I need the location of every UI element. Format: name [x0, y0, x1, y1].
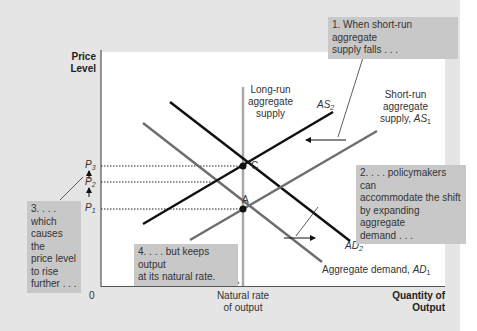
ad1-label: Aggregate demand, AD1: [322, 264, 430, 279]
callout-1: 1. When short-run aggregate supply falls…: [328, 17, 458, 59]
as1-label: Short-run aggregate supply, AS1: [368, 89, 443, 128]
callout-4: 4. . . . but keeps output at its natural…: [134, 244, 238, 286]
natural-rate-line2: of output: [213, 302, 273, 314]
natural-rate-line1: Natural rate: [213, 290, 273, 302]
p2-label: P2: [85, 176, 96, 191]
x-axis-label-line1: Quantity of: [375, 290, 445, 302]
x-axis-label: Quantity of Output: [375, 290, 445, 314]
lras-label: Long-run aggregate supply: [243, 84, 298, 120]
p3-label: P3: [85, 159, 96, 174]
x-axis-label-line2: Output: [375, 302, 445, 314]
point-c: [240, 163, 247, 170]
point-c-label: C: [251, 160, 258, 172]
callout-2: 2. . . . policymakers can accommodate th…: [356, 165, 466, 244]
as2-label: AS2: [317, 99, 334, 114]
p1-label: P1: [85, 202, 96, 217]
y-axis-label: Price Level: [68, 51, 96, 75]
y-axis-label-line2: Level: [68, 63, 96, 75]
callout2-leader: [296, 207, 318, 236]
natural-rate-label: Natural rate of output: [213, 290, 273, 314]
callout3-leader: [60, 177, 83, 200]
ad1-curve: [143, 123, 322, 262]
origin-label: 0: [89, 290, 95, 302]
callout-3: 3. . . . which causes the price level to…: [27, 201, 81, 293]
y-axis-label-line1: Price: [68, 51, 96, 63]
point-a: [240, 206, 247, 213]
point-a-label: A: [242, 194, 249, 206]
as1-curve: [190, 131, 377, 240]
callout1-leader: [338, 45, 367, 137]
ad2-curve: [170, 102, 350, 241]
